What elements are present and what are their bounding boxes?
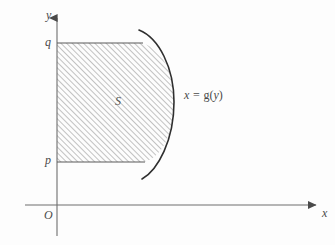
- x-axis-label: x: [322, 207, 327, 219]
- upper-bound-label-q: q: [45, 36, 51, 48]
- curve-eq-close-paren: ): [219, 88, 223, 102]
- lower-bound-label-p: p: [45, 154, 51, 166]
- origin-label: O: [44, 209, 53, 221]
- curve-equation-label: x = g(y): [184, 89, 223, 101]
- curve-eq-equals: =: [189, 88, 203, 102]
- y-axis-label: y: [46, 9, 51, 21]
- region-label-s: S: [115, 95, 121, 107]
- figure-canvas: y x O q p S x = g(y): [0, 0, 335, 245]
